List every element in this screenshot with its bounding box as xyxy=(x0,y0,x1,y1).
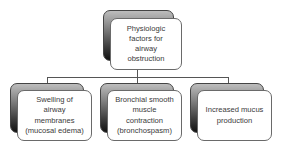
airway-obstruction-diagram: Physiologic factors for airway obstructi… xyxy=(0,0,285,155)
root-node-label: Physiologic factors for airway obstructi… xyxy=(127,24,165,64)
child-node-3-label: Increased mucus production xyxy=(206,105,264,125)
child-node-2-label: Bronchial smooth muscle contraction (bro… xyxy=(115,95,174,135)
connector-horizontal xyxy=(47,77,229,78)
child-node-1-label: Swelling of airway membranes (mucosal ed… xyxy=(25,95,84,135)
connector-root-vertical xyxy=(137,70,138,77)
child-node-mucus-production: Increased mucus production xyxy=(197,90,272,141)
root-node: Physiologic factors for airway obstructi… xyxy=(110,18,182,70)
child-node-mucosal-edema: Swelling of airway membranes (mucosal ed… xyxy=(17,90,92,141)
child-node-bronchospasm: Bronchial smooth muscle contraction (bro… xyxy=(107,90,182,141)
